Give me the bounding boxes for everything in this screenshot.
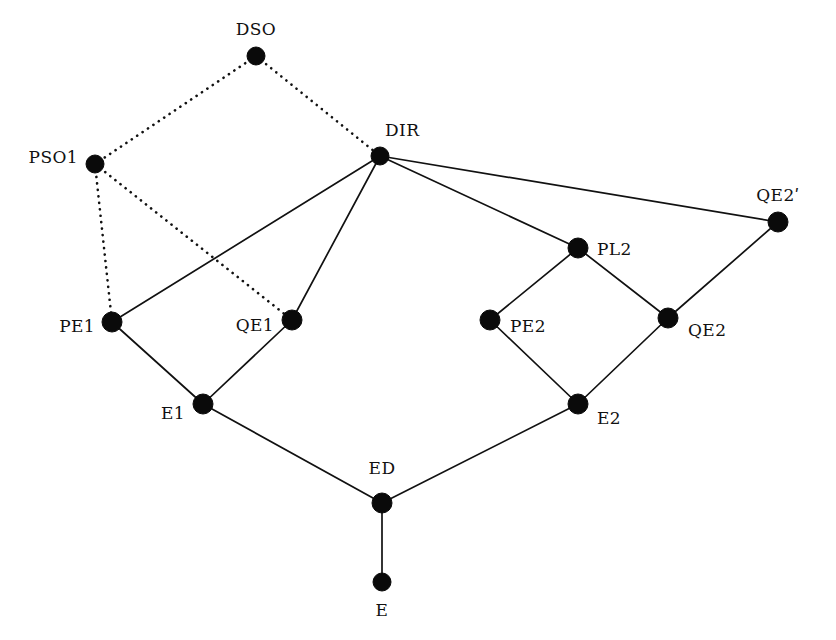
edge-dir-qe1: [292, 156, 380, 320]
edge-pl2-qe2: [578, 248, 668, 318]
node-e1[interactable]: [193, 394, 213, 414]
node-pl2[interactable]: [568, 238, 588, 258]
node-pe2[interactable]: [480, 310, 500, 330]
edge-qe2p-qe2: [668, 222, 778, 318]
node-e2[interactable]: [568, 394, 588, 414]
node-label-pl2: PL2: [597, 241, 632, 258]
edge-pe1-e1: [112, 322, 203, 404]
edge-dso-pso1: [95, 56, 256, 164]
edge-e2-ed: [382, 404, 578, 503]
edge-pso1-qe1: [95, 164, 292, 320]
node-label-e2: E2: [597, 410, 621, 427]
node-pso1[interactable]: [86, 155, 104, 173]
node-label-e: E: [376, 602, 389, 619]
node-label-qe2p: QE2ʹ: [756, 187, 800, 204]
node-label-e1: E1: [161, 405, 185, 422]
node-ed[interactable]: [372, 493, 392, 513]
node-e[interactable]: [373, 573, 391, 591]
edge-qe2-e2: [578, 318, 668, 404]
node-label-qe1: QE1: [236, 317, 274, 334]
edge-dir-pe1: [112, 156, 380, 322]
edge-dir-pl2: [380, 156, 578, 248]
node-label-pe1: PE1: [59, 318, 95, 335]
node-label-pe2: PE2: [510, 318, 546, 335]
node-layer: [86, 47, 788, 591]
edge-pso1-pe1: [95, 164, 112, 322]
node-dir[interactable]: [371, 147, 389, 165]
node-pe1[interactable]: [102, 312, 122, 332]
node-label-dso: DSO: [236, 21, 276, 38]
node-qe2[interactable]: [658, 308, 678, 328]
lattice-diagram: DSOPSO1DIRQE2ʹPL2PE1QE1PE2QE2E1E2EDE: [0, 0, 836, 640]
node-label-dir: DIR: [385, 122, 419, 139]
node-qe1[interactable]: [282, 310, 302, 330]
node-qe2p[interactable]: [768, 212, 788, 232]
node-label-ed: ED: [369, 460, 396, 477]
node-dso[interactable]: [247, 47, 265, 65]
edge-e1-ed: [203, 404, 382, 503]
node-label-qe2: QE2: [688, 322, 726, 339]
edge-pl2-pe2: [490, 248, 578, 320]
edge-dir-qe2p: [380, 156, 778, 222]
edge-dso-dir: [256, 56, 380, 156]
node-label-pso1: PSO1: [29, 149, 78, 166]
